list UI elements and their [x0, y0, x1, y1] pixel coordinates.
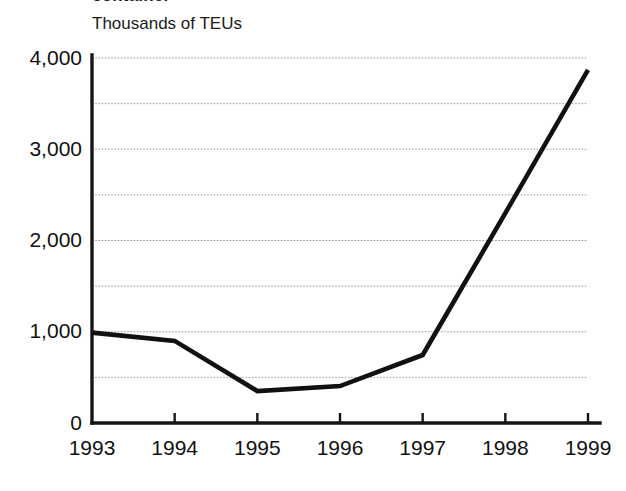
x-axis-tick-label: 1996: [317, 436, 364, 459]
x-axis-tick-label: 1999: [565, 436, 612, 459]
y-axis-tick-label: 2,000: [29, 228, 82, 251]
y-axis-tick-label: 1,000: [29, 319, 82, 342]
x-axis-tick-label: 1997: [399, 436, 446, 459]
x-axis-tick-label: 1998: [482, 436, 529, 459]
y-axis-tick-labels: 01,0002,0003,0004,000: [29, 46, 82, 434]
gridlines-group: [92, 58, 588, 377]
y-axis-tick-label: 0: [70, 411, 82, 434]
x-axis-tick-labels: 1993199419951996199719981999: [69, 436, 612, 459]
y-axis-tick-label: 4,000: [29, 46, 82, 69]
x-axis-tick-label: 1993: [69, 436, 116, 459]
x-axis-tick-label: 1995: [234, 436, 281, 459]
chart-figure: container Thousands of TEUs 01,0002,0003…: [0, 0, 626, 491]
x-axis-tick-label: 1994: [151, 436, 198, 459]
y-axis-tick-label: 3,000: [29, 137, 82, 160]
line-chart-plot: 01,0002,0003,0004,000 199319941995199619…: [0, 0, 626, 491]
data-series-line: [92, 70, 588, 391]
